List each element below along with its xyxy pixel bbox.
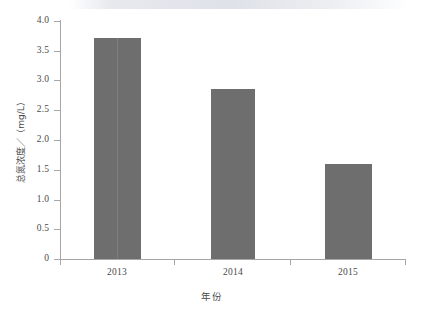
y-axis-tick — [54, 200, 60, 201]
x-axis-tick — [174, 259, 175, 265]
y-axis-tick — [54, 170, 60, 171]
x-axis-title: 年份 — [0, 291, 423, 303]
x-axis-tick-label: 2013 — [87, 267, 147, 278]
x-axis-tick-label: 2014 — [203, 267, 263, 278]
bar-2015 — [325, 164, 372, 259]
y-axis-line — [60, 20, 61, 260]
y-axis-tick-label: 0 — [15, 254, 49, 264]
x-axis-tick — [290, 259, 291, 265]
x-axis-line — [60, 259, 405, 260]
x-axis-tick — [405, 259, 406, 265]
y-axis-tick — [54, 110, 60, 111]
y-axis-tick — [54, 51, 60, 52]
x-axis-tick — [60, 259, 61, 265]
y-axis-tick — [54, 21, 60, 22]
bar-seam — [117, 38, 118, 259]
bar-2013 — [94, 38, 141, 259]
y-axis-title-text: 总氮浓度／（mg/L） — [16, 97, 26, 183]
y-axis-tick-label: 4.0 — [15, 16, 49, 26]
y-axis-tick — [54, 229, 60, 230]
y-axis-tick-label: 0.5 — [15, 224, 49, 234]
y-axis-tick-label: 3.5 — [15, 46, 49, 56]
bar-2014 — [211, 89, 255, 259]
y-axis-tick — [54, 140, 60, 141]
x-axis-tick-label: 2015 — [318, 267, 378, 278]
y-axis-tick — [54, 80, 60, 81]
y-axis-title: 总氮浓度／（mg/L） — [13, 70, 29, 210]
bar-chart: 4.0 3.5 3.0 2.5 2.0 1.5 1.0 0.5 0 2013 2… — [0, 0, 423, 323]
